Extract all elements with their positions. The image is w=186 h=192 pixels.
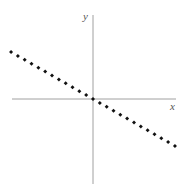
data-point: [43, 70, 47, 74]
x-axis-label: x: [170, 100, 175, 112]
data-point: [105, 105, 109, 109]
data-point: [57, 77, 61, 81]
scatter-plot: [0, 0, 186, 192]
data-point: [9, 50, 13, 54]
data-point: [23, 58, 27, 62]
data-point: [77, 89, 81, 93]
data-point: [91, 97, 95, 101]
data-point: [36, 66, 40, 70]
data-point: [118, 113, 122, 117]
data-point: [64, 81, 68, 85]
data-point: [152, 132, 156, 136]
data-point: [166, 140, 170, 144]
data-point: [146, 128, 150, 132]
data-point: [132, 121, 136, 125]
data-point: [139, 124, 143, 128]
data-point: [71, 85, 75, 89]
data-point: [98, 101, 102, 105]
data-point: [50, 73, 54, 77]
data-point: [16, 54, 20, 58]
data-point: [159, 136, 163, 140]
data-point: [30, 62, 34, 66]
data-point: [111, 109, 115, 113]
y-axis-label: y: [83, 10, 88, 22]
data-point: [84, 93, 88, 97]
data-point: [173, 144, 177, 148]
data-point: [125, 117, 129, 121]
